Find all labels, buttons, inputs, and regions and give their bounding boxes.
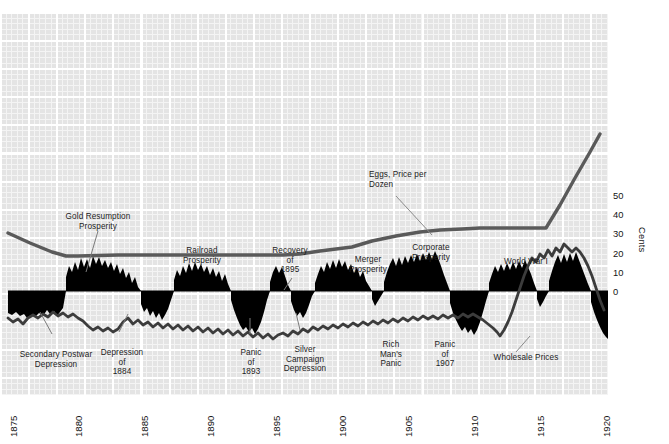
annotation-silver-campaign-depression: Silver Campaign Depression: [276, 345, 334, 374]
leader-wholesale: [516, 336, 530, 352]
x-tick-1890: 1890: [205, 416, 216, 437]
x-tick-1910: 1910: [469, 416, 480, 437]
x-tick-1920: 1920: [601, 416, 612, 437]
x-tick-1905: 1905: [403, 416, 414, 437]
annotation-gold-resumption: Gold Resumption Prosperity: [50, 212, 146, 231]
y-axis-title: Cents: [637, 227, 648, 253]
y-tick-50: 50: [613, 190, 623, 201]
y-tick-40: 40: [613, 209, 623, 220]
leader-silver-campaign: [296, 313, 300, 330]
annotation-railroad-prosperity: Railroad Prosperity: [172, 246, 232, 265]
leader-depression-1884: [119, 314, 128, 332]
annotation-recovery-1895: Recovery of 1895: [262, 246, 318, 275]
x-tick-1875: 1875: [8, 416, 19, 437]
annotation-panic-1907: Panic of 1907: [424, 340, 466, 369]
chart-canvas: Gold Resumption Prosperity Railroad Pros…: [0, 0, 669, 444]
annotation-world-war-one: World War I: [489, 257, 563, 267]
annotation-secondary-postwar-depression: Secondary Postwar Depression: [10, 350, 102, 369]
annotation-merger-prosperity: Merger Prosperity: [337, 255, 399, 274]
x-tick-1895: 1895: [271, 416, 282, 437]
annotation-depression-1884: Depression of 1884: [96, 348, 148, 377]
annotation-panic-1893: Panic of 1893: [228, 348, 274, 377]
y-tick-0: 0: [613, 286, 618, 297]
x-tick-1880: 1880: [73, 416, 84, 437]
annotation-corporate-prosperity: Corporate Prosperity: [396, 243, 466, 262]
eggs-price-line: [8, 134, 600, 256]
y-tick-10: 10: [613, 267, 623, 278]
annotation-rich-mans-panic: Rich Man's Panic: [371, 340, 411, 369]
leader-eggs: [396, 196, 432, 235]
x-tick-1885: 1885: [139, 416, 150, 437]
annotation-eggs-price-per-dozen: Eggs, Price per Dozen: [369, 170, 473, 189]
x-tick-1900: 1900: [337, 416, 348, 437]
y-tick-30: 30: [613, 228, 623, 239]
x-tick-1915: 1915: [535, 416, 546, 437]
y-tick-20: 20: [613, 248, 623, 259]
annotation-wholesale-prices: Wholesale Prices: [481, 353, 571, 363]
